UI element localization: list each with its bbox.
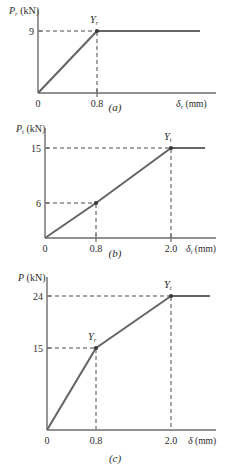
- chart-c-yield-marker-tearout: [169, 294, 173, 298]
- chart-b-marker-08: [94, 201, 98, 205]
- chart-b-yticklabel-6: 6: [36, 198, 41, 209]
- chart-c-xticklabel-20: 2.0: [165, 435, 178, 446]
- chart-c-combined-load-deflection: P (kN) Yr Yt 24 15 0 0.8 2.0: [0, 264, 230, 471]
- chart-c-curve: [47, 296, 210, 430]
- chart-c-caption: (c): [0, 452, 230, 464]
- chart-c-ylabel: P (kN): [17, 272, 46, 284]
- chart-b-yield-marker: [169, 146, 173, 150]
- chart-a-caption: (a): [0, 101, 230, 113]
- chart-b-caption: (b): [0, 247, 230, 259]
- chart-c-xticklabel-08: 0.8: [90, 435, 103, 446]
- chart-b-ylabel-symbol: P: [15, 123, 22, 134]
- chart-c-point-label-yr: Yr: [88, 331, 97, 343]
- chart-b-point-label-yt: Yt: [164, 131, 172, 143]
- chart-a-yunit: (kN): [20, 5, 39, 17]
- chart-c-yield-marker-rivet: [94, 346, 98, 350]
- chart-a-yticklabel-9: 9: [29, 26, 34, 37]
- figure-b: Pt (kN) Yt 15 6 0 0.8 2.0 δt (mm): [0, 118, 230, 266]
- chart-a-yield-marker: [95, 29, 99, 33]
- chart-b-load-deflection-tearout: Pt (kN) Yt 15 6 0 0.8 2.0 δt (mm): [0, 118, 230, 266]
- chart-b-ylabel: Pt (kN): [15, 123, 45, 135]
- chart-b-yunit: (kN): [26, 123, 45, 135]
- chart-c-xlabel: δ (mm): [188, 435, 216, 447]
- chart-c-yticklabel-24: 24: [33, 291, 43, 302]
- chart-c-xunit: (mm): [195, 436, 216, 447]
- chart-a-ylabel: Pr (kN): [8, 5, 39, 17]
- chart-c-yticklabel-15: 15: [33, 343, 43, 354]
- chart-c-yunit: (kN): [27, 272, 46, 284]
- chart-a-curve: [38, 31, 200, 93]
- chart-c-xticklabel-0: 0: [45, 435, 50, 446]
- chart-c-ylabel-symbol: P: [17, 272, 24, 283]
- chart-a-point-label-yr: Yr: [90, 14, 99, 26]
- chart-b-curve: [45, 148, 205, 238]
- figure-a: Pr (kN) Yr 9 0 0.8 δr (mm) (a): [0, 0, 230, 120]
- figure-c: P (kN) Yr Yt 24 15 0 0.8 2.0: [0, 264, 230, 471]
- chart-b-yticklabel-15: 15: [31, 143, 41, 154]
- chart-c-point-label-yt: Yt: [164, 279, 172, 291]
- chart-a-ylabel-symbol: P: [8, 5, 15, 16]
